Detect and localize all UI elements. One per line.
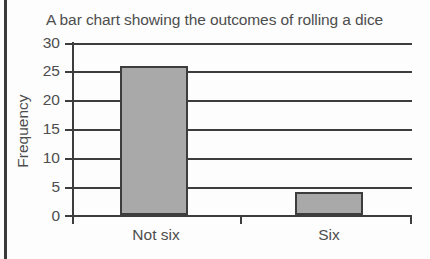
- chart-title: A bar chart showing the outcomes of roll…: [46, 9, 424, 31]
- y-axis-tick-labels: 30 25 20 15 10 5 0: [30, 0, 60, 259]
- bar-six[interactable]: [295, 192, 363, 215]
- gridline-30: [72, 43, 412, 45]
- x-axis-baseline: [72, 215, 412, 217]
- y-tick-label-30: 30: [32, 35, 60, 51]
- x-tick-mark-left: [72, 216, 74, 224]
- plot-area: [72, 43, 412, 216]
- x-tick-label-not-six: Not six: [92, 224, 220, 246]
- x-tick-mark-right: [410, 216, 412, 224]
- bar-not-six[interactable]: [120, 66, 188, 215]
- y-tick-label-0: 0: [32, 208, 60, 224]
- y-tick-label-20: 20: [32, 92, 60, 108]
- x-tick-mark-middle: [240, 216, 242, 224]
- y-tick-label-15: 15: [32, 121, 60, 137]
- y-tick-label-10: 10: [32, 150, 60, 166]
- y-tick-label-5: 5: [32, 179, 60, 195]
- bar-chart-figure: A bar chart showing the outcomes of roll…: [0, 0, 430, 259]
- x-tick-label-six: Six: [265, 224, 393, 246]
- y-tick-label-25: 25: [32, 63, 60, 79]
